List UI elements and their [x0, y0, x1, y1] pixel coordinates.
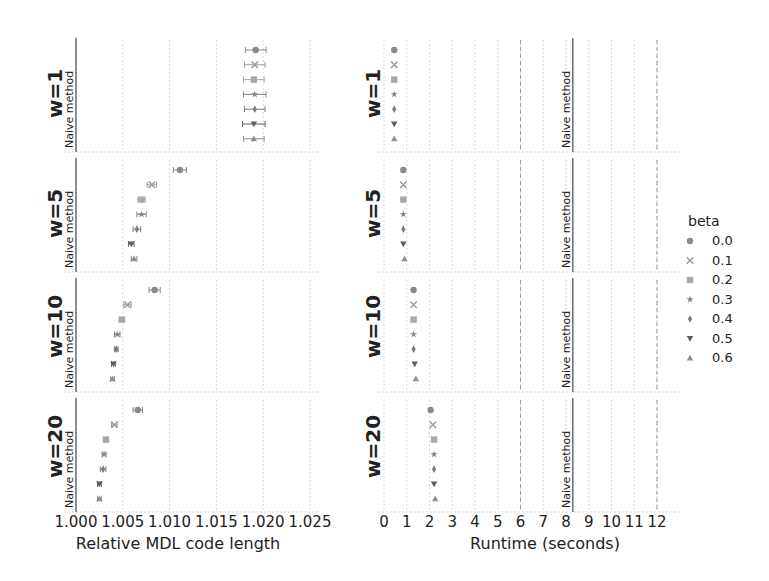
- data-point-beta-0.4: [135, 225, 139, 233]
- facet-label: w=1: [361, 69, 385, 118]
- facet-label: w=5: [361, 189, 385, 238]
- data-point-beta-0.0: [151, 287, 157, 293]
- x-tick-label: 6: [516, 513, 526, 531]
- data-point-beta-0.3: [430, 451, 437, 458]
- legend-label: 0.4: [712, 311, 733, 326]
- x-axis-title: Relative MDL code length: [76, 534, 280, 553]
- data-point-beta-0.0: [410, 287, 416, 293]
- data-point-beta-0.1: [410, 302, 416, 308]
- legend-marker-icon: [687, 336, 693, 342]
- data-point-beta-0.4: [392, 105, 396, 113]
- facet-w10: Naive methodw=10: [361, 278, 680, 392]
- mdl-panel: Naive methodw=1Naive methodw=5Naive meth…: [43, 38, 331, 553]
- facet-label: w=10: [43, 295, 67, 358]
- data-point-beta-0.0: [253, 47, 259, 53]
- x-axis: 0123456789101112Runtime (seconds): [379, 513, 666, 553]
- data-point-beta-0.0: [400, 167, 406, 173]
- naive-method-label: Naive method: [560, 311, 573, 388]
- data-point-beta-0.2: [119, 316, 125, 322]
- facet-w20: Naive methodw=20: [43, 398, 320, 512]
- facet-w1: Naive methodw=1: [361, 38, 680, 152]
- data-point-beta-0.2: [431, 436, 437, 442]
- data-point-beta-0.4: [411, 345, 415, 353]
- data-point-beta-0.3: [410, 331, 417, 338]
- x-axis: 1.0001.0051.0101.0151.0201.025Relative M…: [55, 513, 332, 553]
- legend-marker-icon: [687, 277, 693, 283]
- data-point-beta-0.5: [431, 481, 437, 487]
- data-point-beta-0.5: [391, 121, 397, 127]
- facet-label: w=20: [43, 415, 67, 478]
- data-point-beta-0.4: [432, 465, 436, 473]
- x-tick-label: 5: [493, 513, 503, 531]
- x-tick-label: 1.025: [289, 513, 332, 531]
- x-tick-label: 1: [402, 513, 412, 531]
- facet-w20: Naive methodw=20: [361, 398, 680, 512]
- data-point-beta-0.0: [391, 47, 397, 53]
- legend-label: 0.1: [712, 253, 733, 268]
- x-tick-label: 10: [602, 513, 621, 531]
- data-point-beta-0.2: [103, 436, 109, 442]
- legend-entry-0.4: 0.4: [688, 311, 733, 326]
- x-tick-label: 7: [538, 513, 548, 531]
- data-point-beta-0.0: [135, 407, 141, 413]
- facet-w5: Naive methodw=5: [43, 158, 320, 272]
- legend-label: 0.5: [712, 331, 733, 346]
- legend-label: 0.2: [712, 272, 733, 287]
- legend-entry-0.6: 0.6: [687, 350, 733, 365]
- data-point-beta-0.6: [432, 496, 438, 502]
- legend-entry-0.5: 0.5: [687, 331, 733, 346]
- data-point-beta-0.2: [391, 76, 397, 82]
- legend-marker-icon: [687, 257, 693, 263]
- facet-label: w=10: [361, 295, 385, 358]
- x-tick-label: 9: [584, 513, 594, 531]
- data-point-beta-0.4: [401, 225, 405, 233]
- legend: beta0.00.10.20.30.40.50.6: [686, 213, 732, 365]
- x-tick-label: 8: [561, 513, 571, 531]
- data-point-beta-0.2: [400, 196, 406, 202]
- x-tick-label: 1.010: [148, 513, 191, 531]
- data-point-beta-0.2: [410, 316, 416, 322]
- x-tick-label: 11: [625, 513, 644, 531]
- x-tick-label: 0: [379, 513, 389, 531]
- legend-label: 0.3: [712, 292, 733, 307]
- data-point-beta-0.4: [101, 465, 105, 473]
- legend-entry-0.0: 0.0: [687, 233, 733, 248]
- facet-w1: Naive methodw=1: [43, 38, 320, 152]
- naive-method-label: Naive method: [560, 191, 573, 268]
- facet-w10: Naive methodw=10: [43, 278, 320, 392]
- facet-label: w=20: [361, 415, 385, 478]
- facet-w5: Naive methodw=5: [361, 158, 680, 272]
- x-axis-title: Runtime (seconds): [470, 534, 620, 553]
- legend-entry-0.1: 0.1: [687, 253, 733, 268]
- data-point-beta-0.6: [413, 376, 419, 382]
- x-tick-label: 12: [647, 513, 666, 531]
- naive-method-label: Naive method: [560, 71, 573, 148]
- data-point-beta-0.5: [412, 361, 418, 367]
- legend-title: beta: [688, 213, 720, 229]
- legend-entry-0.2: 0.2: [687, 272, 733, 287]
- x-tick-label: 1.020: [242, 513, 285, 531]
- x-tick-label: 3: [447, 513, 457, 531]
- legend-entry-0.3: 0.3: [686, 292, 732, 307]
- x-tick-label: 1.015: [195, 513, 238, 531]
- data-point-beta-0.2: [138, 196, 144, 202]
- data-point-beta-0.3: [100, 451, 107, 458]
- data-point-beta-0.1: [400, 182, 406, 188]
- data-point-beta-0.1: [391, 62, 397, 68]
- legend-marker-icon: [688, 315, 692, 323]
- data-point-beta-0.0: [177, 167, 183, 173]
- x-tick-label: 1.000: [55, 513, 98, 531]
- naive-method-label: Naive method: [560, 431, 573, 508]
- legend-label: 0.0: [712, 233, 733, 248]
- legend-marker-icon: [686, 296, 693, 303]
- data-point-beta-0.3: [400, 211, 407, 218]
- facet-label: w=5: [43, 189, 67, 238]
- data-point-beta-0.5: [400, 241, 406, 247]
- data-point-beta-0.6: [391, 136, 397, 142]
- legend-marker-icon: [687, 355, 693, 361]
- data-point-beta-0.4: [253, 105, 257, 113]
- data-point-beta-0.3: [391, 91, 398, 98]
- legend-label: 0.6: [712, 350, 733, 365]
- data-point-beta-0.0: [427, 407, 433, 413]
- figure: Naive methodw=1Naive methodw=5Naive meth…: [0, 0, 769, 581]
